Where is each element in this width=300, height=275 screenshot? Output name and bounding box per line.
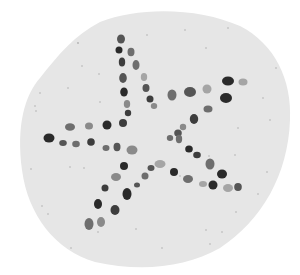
pebble-star-photo <box>0 0 300 275</box>
round-disc <box>20 11 290 267</box>
